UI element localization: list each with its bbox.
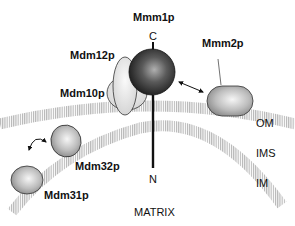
label-mdm31p: Mdm31p [44,190,89,201]
mdm32p-mdm31p-arrow [29,139,46,150]
label-matrix: MATRIX [134,207,175,218]
label-om: OM [256,118,274,129]
label-ims: IMS [256,148,276,159]
mmm1p-mmm2p-interaction-arrow [179,82,203,92]
mmm2p-leader-line [218,59,221,85]
mmm2p-shape [207,86,253,116]
label-n-terminus: N [149,174,157,185]
label-mdm10p: Mdm10p [60,88,105,99]
mmm1p-shape [129,49,175,95]
label-mmm2p: Mmm2p [202,38,244,49]
label-mdm12p: Mdm12p [70,50,115,61]
mdm31p-shape [11,166,43,194]
label-c-terminus: C [149,31,157,42]
label-mmm1p: Mmm1p [133,12,175,23]
label-mdm32p: Mdm32p [75,161,120,172]
label-im: IM [256,178,268,189]
